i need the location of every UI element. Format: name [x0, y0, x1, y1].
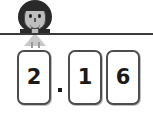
decimal-point	[55, 88, 64, 92]
right-eye-icon	[38, 14, 41, 18]
left-eye-icon	[29, 14, 32, 18]
digit-card-hundredths[interactable]: 6	[106, 50, 140, 105]
girl-figure	[16, 0, 54, 48]
digit-card-ones[interactable]: 2	[17, 50, 51, 105]
horizontal-divider	[0, 33, 153, 35]
left-leg-icon	[31, 42, 33, 48]
activity-canvas: 2 1 6	[0, 0, 153, 113]
fringe-icon	[23, 3, 47, 11]
digit-card-tenths[interactable]: 1	[68, 50, 102, 105]
digit-card-hundredths-value: 6	[116, 67, 131, 88]
right-leg-icon	[38, 42, 40, 48]
decimal-point-dot	[58, 88, 62, 92]
digit-card-row: 2 1 6	[17, 50, 140, 105]
digit-card-ones-value: 2	[27, 67, 42, 88]
nose-icon	[34, 18, 36, 22]
digit-card-tenths-value: 1	[78, 67, 93, 88]
